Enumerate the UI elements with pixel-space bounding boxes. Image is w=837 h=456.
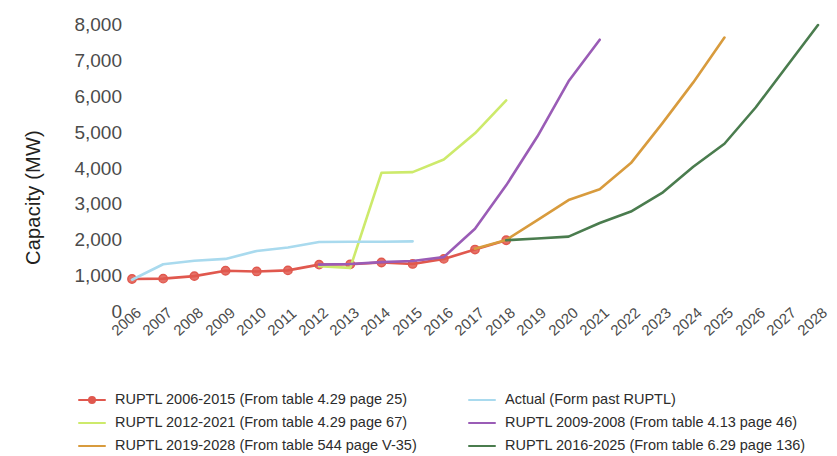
legend-item-2[interactable]: RUPTL 2012-2021 (From table 4.29 page 67… bbox=[78, 415, 468, 430]
legend-item-1[interactable]: Actual (Form past RUPTL) bbox=[468, 392, 837, 407]
x-axis-tick-2012: 2012 bbox=[295, 304, 331, 339]
x-axis-tick-2017: 2017 bbox=[451, 304, 487, 339]
legend-line-icon bbox=[78, 417, 106, 429]
legend-item-label: RUPTL 2019-2028 (From table 544 page V-3… bbox=[115, 438, 417, 453]
capacity-line-chart: Capacity (MW) 01,0002,0003,0004,0005,000… bbox=[0, 0, 837, 456]
x-axis-tick-2024: 2024 bbox=[669, 304, 705, 339]
legend-line-icon bbox=[468, 417, 496, 429]
legend-item-label: RUPTL 2012-2021 (From table 4.29 page 67… bbox=[115, 415, 407, 430]
x-axis-tick-2019: 2019 bbox=[513, 304, 549, 339]
x-axis-tick-2021: 2021 bbox=[576, 304, 612, 339]
x-axis-tick-2008: 2008 bbox=[170, 304, 206, 339]
x-axis-tick-2016: 2016 bbox=[420, 304, 456, 339]
x-axis-tick-2020: 2020 bbox=[545, 304, 581, 339]
legend-line-icon bbox=[468, 394, 496, 406]
legend-item-label: RUPTL 2009-2008 (From table 4.13 page 46… bbox=[505, 415, 797, 430]
x-axis-tick-2023: 2023 bbox=[638, 304, 674, 339]
legend-item-3[interactable]: RUPTL 2009-2008 (From table 4.13 page 46… bbox=[468, 415, 837, 430]
legend-item-4[interactable]: RUPTL 2019-2028 (From table 544 page V-3… bbox=[78, 438, 468, 453]
x-axis-tick-2022: 2022 bbox=[607, 304, 643, 339]
x-axis-tick-2025: 2025 bbox=[700, 304, 736, 339]
x-axis-tick-2015: 2015 bbox=[389, 304, 425, 339]
x-axis-tick-2013: 2013 bbox=[326, 304, 362, 339]
x-axis-tick-2026: 2026 bbox=[732, 304, 768, 339]
x-axis-tick-2007: 2007 bbox=[139, 304, 175, 339]
legend-line-icon bbox=[78, 440, 106, 452]
x-axis-tick-2014: 2014 bbox=[357, 304, 393, 339]
x-axis-tick-2010: 2010 bbox=[233, 304, 269, 339]
x-axis-tick-2028: 2028 bbox=[794, 304, 830, 339]
legend-line-icon bbox=[468, 440, 496, 452]
legend-line-marker-icon bbox=[78, 394, 106, 406]
legend-item-5[interactable]: RUPTL 2016-2025 (From table 6.29 page 13… bbox=[468, 438, 837, 453]
chart-legend: RUPTL 2006-2015 (From table 4.29 page 25… bbox=[78, 388, 828, 456]
legend-item-label: RUPTL 2016-2025 (From table 6.29 page 13… bbox=[505, 438, 805, 453]
x-axis-tick-2027: 2027 bbox=[763, 304, 799, 339]
x-axis-tick-2018: 2018 bbox=[482, 304, 518, 339]
legend-item-label: Actual (Form past RUPTL) bbox=[505, 392, 676, 407]
x-axis-tick-2009: 2009 bbox=[202, 304, 238, 339]
legend-item-0[interactable]: RUPTL 2006-2015 (From table 4.29 page 25… bbox=[78, 392, 468, 407]
x-axis-tick-2011: 2011 bbox=[264, 304, 299, 338]
legend-item-label: RUPTL 2006-2015 (From table 4.29 page 25… bbox=[115, 392, 407, 407]
x-axis-tick-2006: 2006 bbox=[108, 304, 144, 339]
